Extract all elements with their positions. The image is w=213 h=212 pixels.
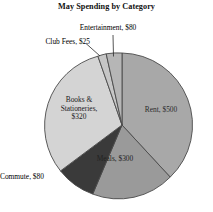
pie-label-club-fees: Club Fees, $25	[6, 38, 90, 47]
pie-label-entertainment: Entertainment, $80	[50, 24, 166, 33]
leader-line-entertainment	[113, 35, 114, 57]
pie-label-rent: Rent, $500	[133, 106, 189, 115]
pie-label-meals: Meals, $300	[84, 155, 146, 164]
pie-chart-figure: May Spending by Category Rent, $500 Meal…	[0, 0, 213, 212]
pie-label-commute: Commute, $80	[0, 173, 72, 182]
pie-label-books-stationeries: Books & Stationeries, $320	[42, 96, 116, 122]
